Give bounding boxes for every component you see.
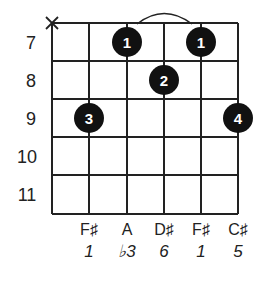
finger-dot: 3 — [74, 103, 104, 133]
svg-text:1: 1 — [123, 34, 131, 51]
finger-dot: 4 — [223, 103, 253, 133]
note-label: D♯ — [154, 221, 174, 238]
finger-dot: 1 — [186, 27, 216, 57]
finger-dot: 2 — [149, 65, 179, 95]
note-label: A — [122, 221, 133, 238]
interval-label: ♭3 — [118, 242, 136, 261]
interval-label: 6 — [159, 242, 169, 261]
fret-numbers: 7 8 9 10 11 — [17, 33, 37, 205]
note-labels: F♯ A D♯ F♯ C♯ — [80, 221, 248, 238]
note-label: C♯ — [228, 221, 248, 238]
svg-text:1: 1 — [197, 34, 205, 51]
note-label: F♯ — [80, 221, 98, 238]
interval-label: 5 — [233, 242, 243, 261]
fret-number-9: 9 — [26, 109, 36, 129]
interval-label: 1 — [196, 242, 205, 261]
chord-diagram: 7 8 9 10 11 1 1 2 3 4 F♯ A D♯ F♯ C♯ 1 ♭3… — [0, 0, 267, 281]
svg-text:2: 2 — [160, 72, 168, 89]
fret-number-8: 8 — [26, 71, 36, 91]
interval-labels: 1 ♭3 6 1 5 — [84, 242, 243, 261]
fret-number-11: 11 — [18, 185, 37, 205]
note-label: F♯ — [192, 221, 210, 238]
svg-text:4: 4 — [234, 110, 243, 127]
interval-label: 1 — [84, 242, 93, 261]
finger-dot: 1 — [112, 27, 142, 57]
fret-number-10: 10 — [17, 147, 37, 167]
svg-text:3: 3 — [85, 110, 93, 127]
fret-number-7: 7 — [26, 33, 36, 53]
